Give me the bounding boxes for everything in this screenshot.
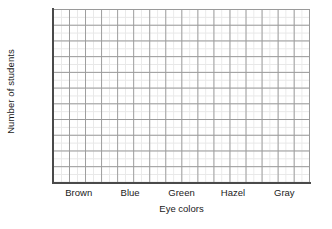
grid-frame-right-line bbox=[309, 9, 310, 182]
y-axis-title-text: Number of students bbox=[5, 49, 16, 134]
bar-chart-figure: Number of students Brown Blue Green Haze… bbox=[0, 0, 332, 229]
x-tick-label-green: Green bbox=[156, 186, 207, 200]
major-gridlines bbox=[53, 9, 310, 182]
x-tick-label-blue: Blue bbox=[104, 186, 155, 200]
y-axis-line bbox=[52, 8, 54, 183]
x-axis-tick-labels: Brown Blue Green Hazel Gray bbox=[53, 186, 310, 200]
grid-frame-top-line bbox=[53, 9, 310, 10]
x-axis-title: Eye colors bbox=[53, 203, 310, 214]
x-tick-label-gray: Gray bbox=[259, 186, 310, 200]
x-axis-line bbox=[52, 182, 311, 184]
x-tick-label-hazel: Hazel bbox=[207, 186, 258, 200]
plot-area bbox=[53, 9, 310, 182]
y-axis-title: Number of students bbox=[0, 0, 20, 182]
x-tick-label-brown: Brown bbox=[53, 186, 104, 200]
